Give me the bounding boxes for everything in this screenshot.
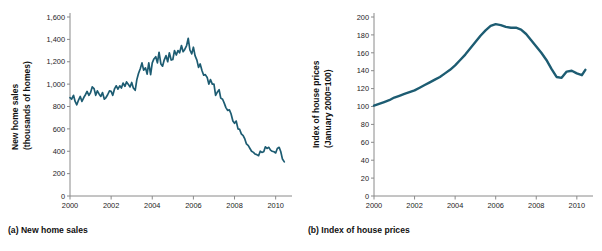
x-tick-label: 2002 [103,201,119,210]
y-tick-label: 80 [361,120,369,129]
chart-panel-house-price-index: Index of house prices (January 2000=100)… [301,0,602,251]
plot-svg-b: 0204060801001201401601802002000200220042… [301,0,602,222]
y-tick-label: 600 [53,125,65,134]
x-tick-label: 2004 [144,201,160,210]
panel-caption-a: (a) New home sales [8,225,88,235]
y-tick-label: 1,000 [47,80,66,89]
y-tick-label: 800 [53,102,65,111]
plot-area-a: 02004006008001,0001,2001,4001,6002000200… [0,0,301,222]
y-tick-label: 20 [361,174,369,183]
y-tick-label: 140 [357,66,369,75]
chart-panel-new-home-sales: New home sales (thousands of homes) 0200… [0,0,301,251]
x-tick-label: 2000 [366,201,382,210]
y-tick-label: 40 [361,156,369,165]
data-line-new-home-sales [70,38,284,162]
panel-caption-b: (b) Index of house prices [308,225,410,235]
y-tick-label: 1,600 [47,13,66,22]
plot-svg-a: 02004006008001,0001,2001,4001,6002000200… [0,0,301,222]
x-tick-label: 2000 [62,201,78,210]
plot-area-b: 0204060801001201401601802002000200220042… [301,0,602,222]
y-tick-label: 160 [357,49,369,58]
x-tick-label: 2006 [185,201,201,210]
x-tick-label: 2006 [487,201,503,210]
y-tick-label: 0 [365,192,369,201]
y-tick-label: 0 [61,192,65,201]
x-tick-label: 2004 [447,201,463,210]
y-tick-label: 400 [53,147,65,156]
y-tick-label: 200 [53,169,65,178]
x-tick-label: 2002 [406,201,422,210]
data-line-index-of-house-prices [374,24,585,105]
x-tick-label: 2010 [569,201,585,210]
y-tick-label: 100 [357,102,369,111]
y-tick-label: 60 [361,138,369,147]
x-tick-label: 2008 [226,201,242,210]
x-tick-label: 2008 [528,201,544,210]
y-tick-label: 120 [357,84,369,93]
y-tick-label: 1,200 [47,57,66,66]
figure-container: New home sales (thousands of homes) 0200… [0,0,602,251]
x-tick-label: 2010 [267,201,283,210]
y-tick-label: 200 [357,13,369,22]
y-tick-label: 1,400 [47,35,66,44]
y-tick-label: 180 [357,31,369,40]
